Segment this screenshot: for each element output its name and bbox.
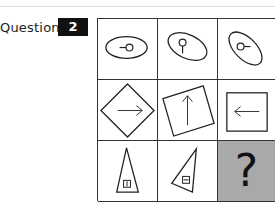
cell-r1-c2 <box>218 80 275 141</box>
missing-answer-cell: ? <box>218 141 275 202</box>
cell-r0-c2 <box>218 19 275 80</box>
question-label: Question <box>0 20 60 35</box>
question-number-badge: 2 <box>58 18 88 36</box>
square-left-arrow-icon <box>218 80 275 140</box>
top-divider <box>0 6 275 7</box>
question-mark: ? <box>218 141 275 201</box>
puzzle-grid: ? <box>97 18 275 201</box>
steep-ellipse-circle-right-line-icon <box>218 19 275 79</box>
cell-r0-c0 <box>98 19 158 80</box>
cell-r0-c1 <box>158 19 218 80</box>
upright-triangle-small-square-icon <box>98 141 157 201</box>
diamond-right-arrow-icon <box>98 80 157 140</box>
cell-r1-c0 <box>98 80 158 141</box>
tilted-triangle-small-square-icon <box>158 141 217 201</box>
cell-r2-c0 <box>98 141 158 202</box>
tilted-ellipse-circle-down-line-icon <box>158 19 217 79</box>
cell-r1-c1 <box>158 80 218 141</box>
ellipse-circle-left-line-icon <box>98 19 157 79</box>
tilted-square-up-arrow-icon <box>158 80 217 140</box>
cell-r2-c1 <box>158 141 218 202</box>
